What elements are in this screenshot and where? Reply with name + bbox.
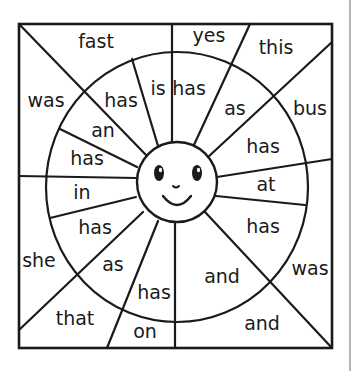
word-has-bottom: has — [137, 281, 171, 303]
word-was-right: was — [291, 257, 328, 279]
word-that: that — [56, 307, 95, 329]
smiling-sun-face-icon — [137, 142, 217, 222]
word-yes: yes — [193, 24, 226, 46]
word-on: on — [133, 320, 157, 342]
word-was-left: was — [27, 89, 64, 111]
word-in: in — [73, 181, 90, 203]
word-and-bottom-right: and — [244, 312, 280, 334]
word-has-right: has — [246, 215, 280, 237]
word-is: is — [150, 77, 165, 99]
word-has-upper-right: has — [246, 135, 280, 157]
word-as-lower-left: as — [102, 253, 124, 275]
word-has-lower-left: has — [78, 216, 112, 238]
word-as-upper-right: as — [224, 97, 246, 119]
word-at: at — [256, 173, 275, 195]
word-puzzle-worksheet: fast yes this bus was and on that she wa… — [0, 0, 354, 371]
word-an: an — [91, 119, 115, 141]
word-has-left: has — [70, 147, 104, 169]
word-has-top: has — [172, 77, 206, 99]
puzzle-canvas: fast yes this bus was and on that she wa… — [0, 0, 354, 371]
word-bus: bus — [293, 97, 327, 119]
word-fast: fast — [78, 30, 114, 52]
word-she: she — [22, 249, 56, 271]
word-has-upper-left: has — [104, 89, 138, 111]
word-this: this — [259, 36, 294, 58]
word-and-inner: and — [204, 265, 240, 287]
